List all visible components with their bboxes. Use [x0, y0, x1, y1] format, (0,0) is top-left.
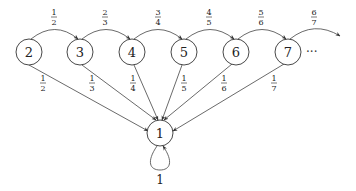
svg-text:2: 2 — [25, 45, 33, 60]
svg-text:5: 5 — [180, 45, 188, 60]
svg-text:1: 1 — [51, 8, 56, 17]
edge-2-3 — [31, 30, 78, 40]
edge-7-1 — [173, 64, 284, 131]
node-2: 2 — [16, 39, 42, 65]
edge-7-next — [290, 29, 340, 39]
edge-3-4 — [82, 30, 130, 40]
svg-text:2: 2 — [51, 18, 56, 27]
label-7-next: 6 7 — [311, 8, 317, 27]
label-4-5: 3 4 — [155, 8, 161, 27]
svg-text:1: 1 — [130, 74, 135, 83]
svg-text:7: 7 — [284, 45, 292, 60]
edge-4-1 — [134, 65, 158, 120]
svg-text:4: 4 — [206, 8, 211, 17]
svg-text:6: 6 — [232, 45, 240, 60]
svg-text:5: 5 — [258, 8, 263, 17]
self-loop-1 — [150, 146, 169, 170]
node-5: 5 — [171, 39, 197, 65]
svg-text:5: 5 — [206, 18, 211, 27]
edge-5-6 — [186, 30, 234, 40]
ellipsis: ··· — [306, 45, 317, 59]
node-1: 1 — [147, 120, 173, 146]
label-2-1: 1 2 — [40, 74, 46, 93]
label-7-1: 1 7 — [271, 74, 277, 93]
node-7: 7 — [275, 39, 301, 65]
svg-text:6: 6 — [221, 84, 226, 93]
label-6-1: 1 6 — [221, 74, 227, 93]
self-loop-label: 1 — [156, 173, 164, 187]
svg-text:4: 4 — [128, 45, 136, 60]
svg-text:4: 4 — [155, 18, 160, 27]
label-5-1: 1 5 — [181, 74, 187, 93]
svg-text:3: 3 — [76, 45, 84, 60]
svg-text:2: 2 — [102, 8, 107, 17]
nodes: 2 3 4 5 6 7 1 — [16, 39, 301, 146]
svg-text:5: 5 — [181, 84, 186, 93]
svg-text:1: 1 — [89, 74, 94, 83]
svg-text:6: 6 — [311, 8, 316, 17]
label-6-7: 5 6 — [258, 8, 264, 27]
svg-text:1: 1 — [221, 74, 226, 83]
label-5-6: 4 5 — [206, 8, 212, 27]
label-3-4: 2 3 — [102, 8, 108, 27]
svg-text:3: 3 — [89, 84, 94, 93]
node-4: 4 — [119, 39, 145, 65]
label-3-1: 1 3 — [89, 74, 95, 93]
label-2-3: 1 2 — [51, 8, 57, 27]
node-3: 3 — [67, 39, 93, 65]
svg-text:2: 2 — [40, 84, 45, 93]
svg-text:3: 3 — [102, 18, 107, 27]
label-4-1: 1 4 — [130, 74, 136, 93]
svg-text:7: 7 — [271, 84, 276, 93]
svg-text:1: 1 — [40, 74, 45, 83]
svg-text:1: 1 — [181, 74, 186, 83]
forward-edge-labels: 1 2 2 3 3 4 4 5 5 6 6 7 — [51, 8, 317, 27]
svg-text:1: 1 — [271, 74, 276, 83]
node-6: 6 — [223, 39, 249, 65]
svg-text:1: 1 — [156, 126, 164, 141]
svg-text:4: 4 — [130, 84, 135, 93]
svg-text:7: 7 — [311, 18, 316, 27]
svg-text:6: 6 — [258, 18, 263, 27]
svg-text:3: 3 — [155, 8, 160, 17]
edge-5-1 — [162, 65, 182, 120]
forward-edges — [31, 29, 340, 39]
markov-chain-diagram: 1 2 2 3 3 4 4 5 5 6 6 7 — [0, 0, 356, 191]
edge-6-7 — [238, 30, 286, 40]
edge-4-5 — [134, 30, 182, 40]
